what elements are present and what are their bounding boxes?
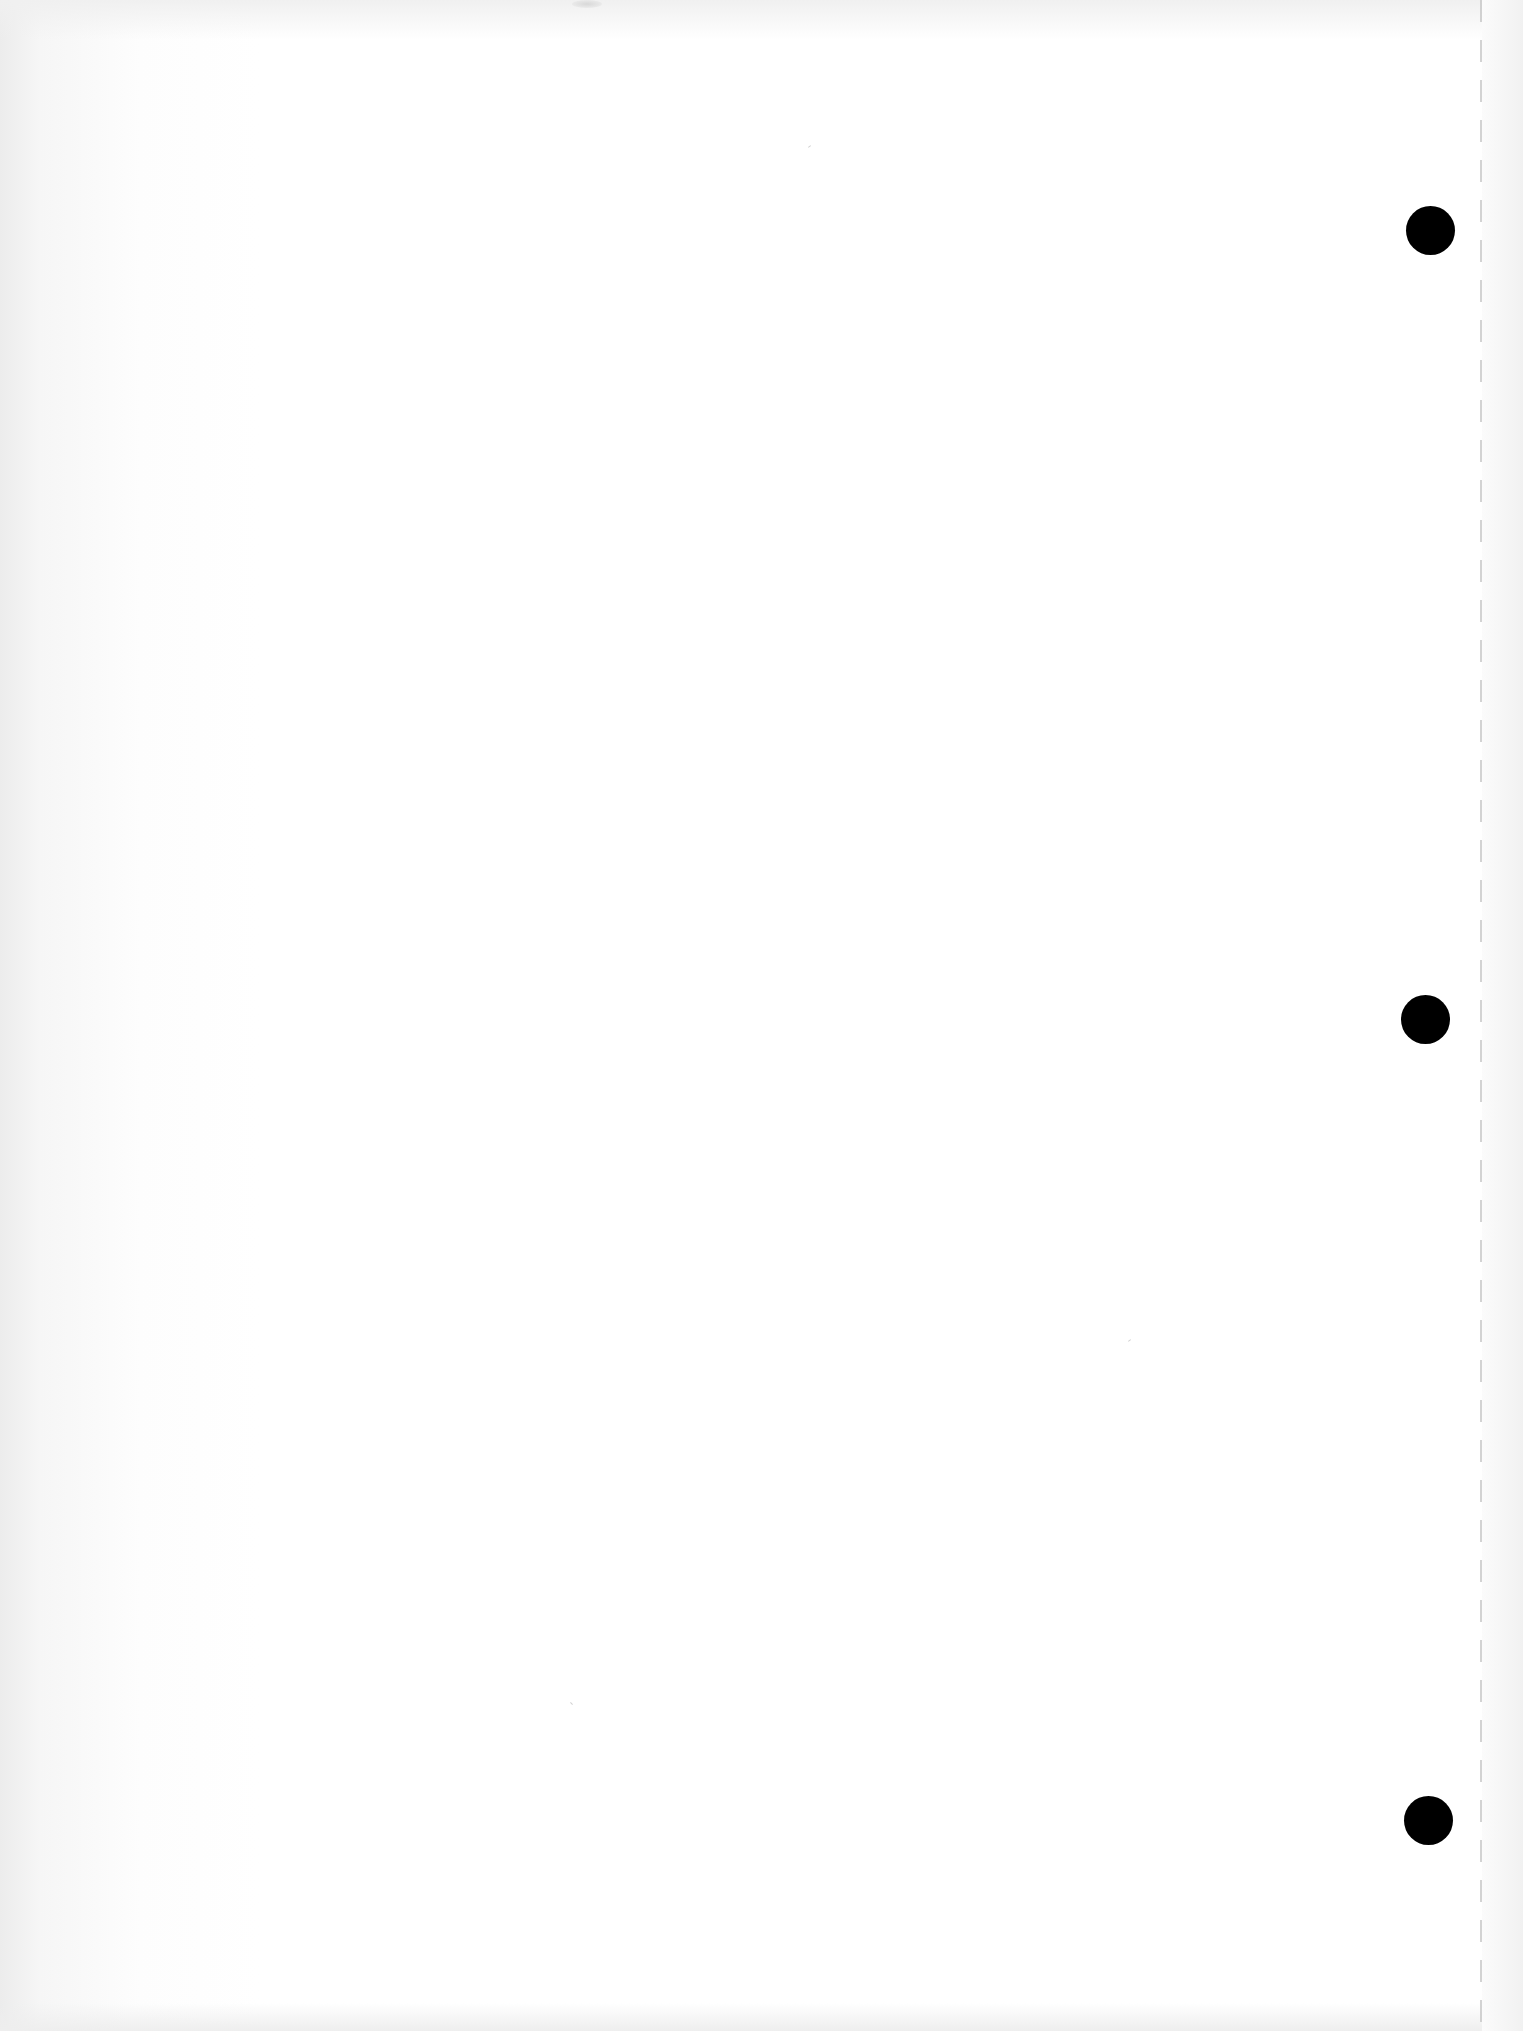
tear-off-strip: [1482, 0, 1523, 2031]
scan-speck: [808, 145, 811, 148]
perforation-line: [1480, 0, 1482, 2031]
blank-page: [0, 0, 1523, 2031]
scan-smudge: [572, 0, 602, 8]
bottom-edge-shadow: [0, 2003, 1523, 2031]
punch-hole-middle: [1401, 995, 1450, 1044]
scan-speck: [570, 1702, 573, 1705]
punch-hole-bottom: [1404, 1796, 1453, 1845]
top-edge-shadow: [0, 0, 1523, 40]
scan-speck: [1128, 1339, 1131, 1342]
punch-hole-top: [1406, 206, 1455, 255]
